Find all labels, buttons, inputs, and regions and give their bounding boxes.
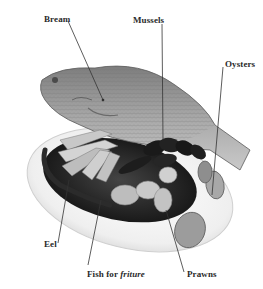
label-fish-for-friture: Fish for friture bbox=[87, 269, 145, 279]
label-mussels: Mussels bbox=[133, 15, 164, 25]
leader-dot-bream bbox=[102, 99, 104, 101]
label-eel: Eel bbox=[44, 239, 57, 249]
label-oysters: Oysters bbox=[225, 59, 255, 69]
seafood-diagram: Bream Mussels Oysters Eel Fish for fritu… bbox=[0, 0, 263, 289]
label-friture-italic: friture bbox=[120, 269, 145, 279]
label-bream: Bream bbox=[44, 14, 70, 24]
label-prawns: Prawns bbox=[187, 269, 217, 279]
seafood-illustration bbox=[0, 0, 263, 289]
label-fish-for-text: Fish for bbox=[87, 269, 120, 279]
